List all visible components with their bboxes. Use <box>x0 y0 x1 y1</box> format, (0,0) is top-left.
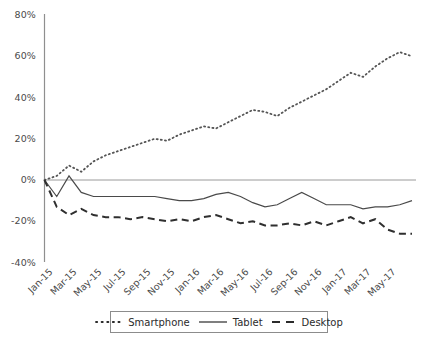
y-tick-label: 20% <box>0 133 36 144</box>
legend-label: Smartphone <box>128 317 190 328</box>
y-tick-label: 80% <box>0 9 36 20</box>
axis-layer <box>45 14 417 262</box>
legend-swatch-dotted <box>95 318 123 326</box>
y-tick-label: 40% <box>0 92 36 103</box>
series-line-tablet <box>45 176 413 209</box>
y-tick-label: 60% <box>0 50 36 61</box>
legend-label: Desktop <box>302 317 343 328</box>
legend-swatch-dashed <box>271 318 297 326</box>
legend-swatch-solid <box>198 318 228 326</box>
series-line-smartphone <box>45 52 413 180</box>
series-layer <box>45 52 413 234</box>
y-tick-label: -20% <box>0 215 36 226</box>
y-tick-label: 0% <box>0 174 36 185</box>
chart-legend: SmartphoneTabletDesktop <box>110 311 328 333</box>
legend-item-smartphone[interactable]: Smartphone <box>95 317 190 328</box>
legend-item-tablet[interactable]: Tablet <box>198 317 263 328</box>
chart-container: -40%-20%0%20%40%60%80% Jan-15Mar-15May-1… <box>0 0 424 345</box>
legend-label: Tablet <box>233 317 263 328</box>
y-tick-label: -40% <box>0 257 36 268</box>
legend-item-desktop[interactable]: Desktop <box>271 317 343 328</box>
chart-plot-area <box>0 0 424 345</box>
